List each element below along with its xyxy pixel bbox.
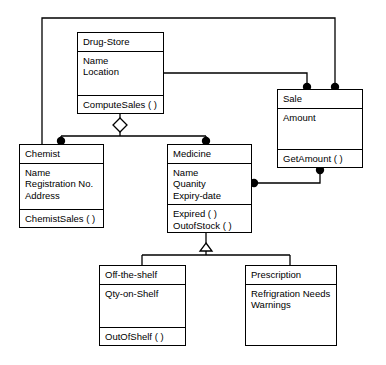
class-name-chemist: Chemist — [20, 145, 103, 164]
attribute-item: Expiry-date — [173, 190, 221, 201]
operation-item: OutOfShelf ( ) — [105, 331, 164, 342]
aggregation-hollow-diamond — [113, 118, 127, 132]
class-operations-off-the-shelf: OutOfShelf ( ) — [100, 328, 185, 346]
class-attributes-chemist: Name Registration No. Address — [20, 164, 103, 210]
uml-class-diagram: Drug-Store Name Location ComputeSales ( … — [0, 0, 386, 365]
class-name-drug-store: Drug-Store — [78, 33, 163, 52]
uml-class-sale[interactable]: Sale Amount GetAmount ( ) — [277, 89, 363, 168]
class-attributes-drug-store: Name Location — [78, 52, 163, 96]
class-name-medicine: Medicine — [168, 145, 251, 164]
attribute-item: Name — [83, 55, 108, 66]
class-attributes-off-the-shelf: Qty-on-Shelf — [100, 285, 185, 328]
generalization-hollow-triangle — [200, 243, 212, 251]
class-attributes-prescription: Refrigration Needs Warnings — [246, 285, 336, 346]
uml-class-prescription[interactable]: Prescription Refrigration Needs Warnings — [245, 265, 337, 346]
class-operations-sale: GetAmount ( ) — [278, 150, 362, 168]
attribute-item: Registration No. — [25, 178, 93, 189]
attribute-item: Warnings — [251, 299, 291, 310]
uml-class-medicine[interactable]: Medicine Name Quanity Expiry-date Expire… — [167, 144, 252, 233]
attribute-item: Name — [25, 167, 50, 178]
uml-class-off-the-shelf[interactable]: Off-the-shelf Qty-on-Shelf OutOfShelf ( … — [99, 265, 186, 346]
uml-class-drug-store[interactable]: Drug-Store Name Location ComputeSales ( … — [77, 32, 164, 114]
attribute-item: Location — [83, 66, 119, 77]
operation-item: Expired ( ) — [173, 208, 217, 219]
aggregation-drugstore-parts[interactable] — [57, 114, 210, 145]
attribute-item: Qty-on-Shelf — [105, 288, 158, 299]
class-operations-drug-store: ComputeSales ( ) — [78, 96, 163, 114]
class-operations-chemist: ChemistSales ( ) — [20, 210, 103, 228]
association-sale-medicine[interactable] — [250, 166, 324, 187]
class-name-sale: Sale — [278, 90, 362, 109]
operation-item: GetAmount ( ) — [283, 153, 343, 164]
class-attributes-medicine: Name Quanity Expiry-date — [168, 164, 251, 206]
class-operations-medicine: Expired ( ) OutofStock ( ) — [168, 205, 251, 234]
class-attributes-sale: Amount — [278, 109, 362, 150]
class-name-prescription: Prescription — [246, 266, 336, 285]
attribute-item: Refrigration Needs — [251, 288, 330, 299]
attribute-item: Name — [173, 167, 198, 178]
operation-item: ChemistSales ( ) — [25, 213, 95, 224]
class-name-off-the-shelf: Off-the-shelf — [100, 266, 185, 285]
uml-class-chemist[interactable]: Chemist Name Registration No. Address Ch… — [19, 144, 104, 228]
generalization-medicine-subclasses[interactable] — [142, 233, 290, 265]
operation-item: ComputeSales ( ) — [83, 99, 157, 110]
attribute-item: Amount — [283, 112, 316, 123]
attribute-item: Quanity — [173, 178, 206, 189]
operation-item: OutofStock ( ) — [173, 220, 232, 231]
attribute-item: Address — [25, 190, 60, 201]
